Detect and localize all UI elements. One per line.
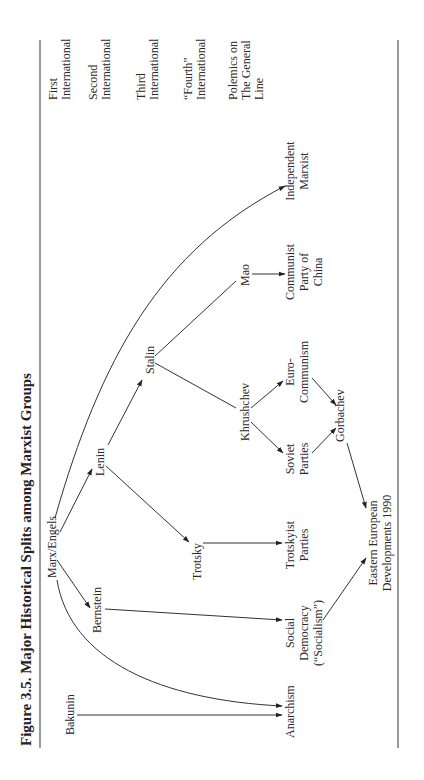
svg-text:Parties: Parties: [297, 442, 311, 475]
svg-text:First: First: [46, 77, 60, 100]
svg-text:Trotskyist: Trotskyist: [283, 520, 297, 569]
column-first-international: First International: [46, 38, 73, 100]
svg-text:Social: Social: [283, 617, 297, 648]
column-third-international: Third International: [134, 38, 161, 100]
node-gorbachev: Gorbachev: [333, 389, 347, 442]
node-eastern-european-developments: Eastern European Developments 1990: [366, 495, 394, 591]
column-polemics-general-line: Polemics on The General Line: [226, 40, 266, 100]
svg-text:International: International: [194, 38, 208, 100]
svg-text:Anarchism: Anarchism: [283, 685, 297, 738]
svg-text:Second: Second: [86, 65, 100, 100]
node-soviet-parties: Soviet Parties: [283, 442, 311, 475]
node-bakunin: Bakunin: [63, 694, 77, 735]
node-trotsky: Trotsky: [190, 543, 204, 580]
svg-text:Independent: Independent: [283, 141, 297, 201]
svg-text:Communist: Communist: [283, 243, 297, 300]
svg-text:International: International: [147, 38, 161, 100]
svg-text:Developments 1990: Developments 1990: [380, 495, 394, 591]
marxist-splits-diagram: Figure 3.5. Major Historical Splits amon…: [0, 0, 424, 780]
node-khrushchev: Khrushchev: [238, 383, 252, 441]
svg-text:Third: Third: [134, 73, 148, 100]
svg-text:“Fourth”: “Fourth”: [181, 57, 195, 100]
node-marx-engels: Marx/Engels: [45, 516, 59, 578]
node-anarchism: Anarchism: [283, 685, 297, 738]
svg-text:Parties: Parties: [297, 528, 311, 561]
svg-text:China: China: [311, 257, 325, 286]
column-fourth-international: “Fourth” International: [181, 38, 208, 100]
node-stalin: Stalin: [143, 346, 157, 374]
svg-text:Communism: Communism: [297, 340, 311, 403]
node-social-democracy: Social Democracy (“Socialism”): [283, 600, 325, 666]
svg-text:Polemics on: Polemics on: [226, 41, 240, 100]
node-lenin: Lenin: [93, 448, 107, 476]
svg-text:Euro-: Euro-: [283, 358, 297, 385]
svg-text:(“Socialism”): (“Socialism”): [311, 600, 325, 666]
svg-text:Eastern European: Eastern European: [366, 501, 380, 586]
column-second-international: Second International: [86, 38, 113, 100]
svg-text:Marxist: Marxist: [297, 152, 311, 190]
svg-text:Line: Line: [252, 78, 266, 100]
svg-text:Democracy: Democracy: [297, 605, 311, 660]
node-communist-party-china: Communist Party of China: [283, 243, 325, 300]
node-mao: Mao: [238, 264, 252, 286]
svg-text:The General: The General: [239, 40, 253, 100]
node-trotskyist-parties: Trotskyist Parties: [283, 520, 311, 569]
svg-text:International: International: [59, 38, 73, 100]
figure-title: Figure 3.5. Major Historical Splits amon…: [18, 373, 34, 746]
node-bernstein: Bernstein: [90, 587, 104, 633]
svg-text:Party of: Party of: [297, 253, 311, 291]
node-euro-communism: Euro- Communism: [283, 340, 311, 403]
svg-text:Soviet: Soviet: [283, 443, 297, 474]
svg-text:International: International: [99, 38, 113, 100]
node-independent-marxist: Independent Marxist: [283, 141, 311, 201]
